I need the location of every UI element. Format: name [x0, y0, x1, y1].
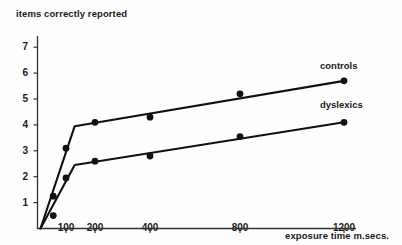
data-point-dyslexics-400 [147, 153, 154, 160]
data-point-dyslexics-70 [50, 212, 57, 219]
series-line-dyslexics [41, 122, 345, 228]
plot-area [0, 0, 402, 245]
data-point-dyslexics-100 [63, 175, 70, 182]
data-point-dyslexics-200 [92, 158, 99, 165]
data-point-controls-1200 [341, 77, 348, 84]
series-line-controls [41, 81, 345, 229]
data-point-controls-100 [63, 145, 70, 152]
x-tick-marks [66, 229, 344, 234]
series-markers [50, 77, 348, 218]
chart-figure: items correctly reported exposure time m… [0, 0, 402, 245]
series-lines [41, 81, 345, 229]
data-point-controls-70 [50, 193, 57, 200]
data-point-controls-200 [92, 119, 99, 126]
data-point-dyslexics-800 [237, 133, 244, 140]
axis-lines [38, 36, 357, 229]
data-point-controls-400 [147, 114, 154, 121]
data-point-dyslexics-1200 [341, 119, 348, 126]
data-point-controls-800 [237, 90, 244, 97]
